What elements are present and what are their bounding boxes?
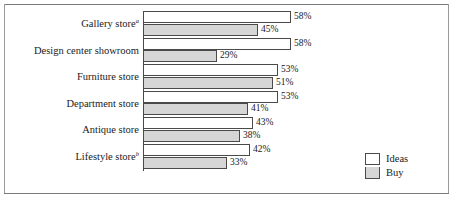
bar-value-label: 45% [261, 23, 278, 36]
bar-value-label: 53% [281, 63, 298, 76]
bar-ideas[interactable]: 58% [143, 38, 291, 50]
bar-value-label: 38% [243, 129, 260, 142]
bar-rect-ideas [143, 117, 253, 129]
category-label-footnote-marker: a [136, 17, 139, 24]
category-label: Antique store [0, 124, 139, 135]
bar-ideas[interactable]: 42% [143, 144, 250, 156]
bar-value-label: 51% [276, 76, 293, 89]
legend-label-buy: Buy [386, 166, 404, 180]
category-label: Furniture store [0, 71, 139, 82]
bar-rect-ideas [143, 91, 278, 103]
figure-container: Gallery storea58%45%Design center showro… [0, 0, 453, 203]
bar-rect-ideas [143, 11, 291, 23]
category-label-footnote-marker: b [136, 150, 139, 157]
bar-rect-buy [143, 130, 240, 142]
bar-buy[interactable]: 33% [143, 157, 227, 169]
bar-buy[interactable]: 51% [143, 77, 273, 89]
category-label: Lifestyle storeb [0, 151, 139, 162]
bar-rect-ideas [143, 144, 250, 156]
bar-rect-ideas [143, 38, 291, 50]
bar-buy[interactable]: 41% [143, 103, 248, 115]
category-label: Design center showroom [0, 45, 139, 56]
bar-value-label: 58% [294, 37, 311, 50]
bar-buy[interactable]: 38% [143, 130, 240, 142]
bar-value-label: 42% [253, 143, 270, 156]
bar-rect-buy [143, 103, 248, 115]
bar-ideas[interactable]: 58% [143, 11, 291, 23]
category-label: Department store [0, 98, 139, 109]
bar-value-label: 29% [220, 49, 237, 62]
bar-rect-buy [143, 157, 227, 169]
bar-ideas[interactable]: 53% [143, 91, 278, 103]
bar-rect-buy [143, 50, 217, 62]
bar-rect-buy [143, 24, 258, 36]
bar-rect-buy [143, 77, 273, 89]
bar-rect-ideas [143, 64, 278, 76]
bar-ideas[interactable]: 43% [143, 117, 253, 129]
bar-value-label: 41% [251, 102, 268, 115]
gray-square-swatch-icon [365, 167, 380, 179]
bar-value-label: 33% [230, 156, 247, 169]
legend-label-ideas: Ideas [386, 152, 408, 166]
bar-ideas[interactable]: 53% [143, 64, 278, 76]
bar-value-label: 53% [281, 90, 298, 103]
bar-value-label: 43% [256, 116, 273, 129]
bar-buy[interactable]: 29% [143, 50, 217, 62]
bar-value-label: 58% [294, 10, 311, 23]
category-label: Gallery storea [0, 18, 139, 29]
bar-buy[interactable]: 45% [143, 24, 258, 36]
white-square-swatch-icon [365, 153, 380, 165]
